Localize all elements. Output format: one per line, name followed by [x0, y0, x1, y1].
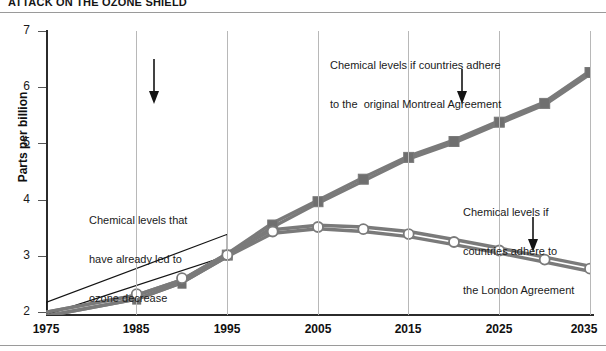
y-tick-mark-6: [38, 87, 46, 88]
figure-divider-bottom: [0, 345, 606, 346]
y-tick-label-2: 2: [8, 304, 30, 318]
y-tick-label-4: 4: [8, 192, 30, 206]
annotation-montreal-line1: Chemical levels if countries adhere: [330, 59, 501, 72]
title-divider-top: [0, 12, 606, 13]
y-tick-label-3: 3: [8, 248, 30, 262]
annotation-historic: Chemical levels that have already led to…: [89, 188, 187, 331]
page-title: ATTACK ON THE OZONE SHIELD: [8, 0, 187, 8]
y-tick-label-6: 6: [8, 79, 30, 93]
annotation-historic-line1: Chemical levels that: [89, 214, 187, 227]
annotation-london-line2: countries adhere to: [463, 245, 574, 258]
x-tick-label-2015: 2015: [378, 322, 438, 336]
annotation-montreal: Chemical levels if countries adhere to t…: [330, 33, 501, 137]
gridline-1995: [227, 31, 228, 315]
london-marker: [358, 224, 368, 234]
montreal-marker: [449, 137, 459, 147]
y-tick-mark-4: [38, 200, 46, 201]
annotation-london-line3: the London Agreement: [463, 284, 574, 297]
annotation-historic-line3: ozone decrease: [89, 292, 187, 305]
london-marker: [268, 227, 278, 237]
montreal-marker: [358, 174, 368, 184]
annotation-montreal-line2: to the original Montreal Agreement: [330, 98, 501, 111]
x-tick-label-2025: 2025: [469, 322, 529, 336]
london-marker: [449, 237, 459, 247]
montreal-marker: [540, 98, 550, 108]
annotation-london-line1: Chemical levels if: [463, 206, 574, 219]
annotation-historic-line2: have already led to: [89, 253, 187, 266]
y-tick-mark-2: [38, 312, 46, 313]
y-tick-label-7: 7: [8, 23, 30, 37]
x-tick-label-2035: 2035: [554, 322, 606, 336]
y-tick-label-5: 5: [8, 135, 30, 149]
x-tick-label-1975: 1975: [16, 322, 76, 336]
annotation-london: Chemical levels if countries adhere to t…: [463, 180, 574, 323]
y-tick-mark-3: [38, 256, 46, 257]
arrow-historic: [149, 59, 159, 104]
x-tick-label-1995: 1995: [197, 322, 257, 336]
x-tick-label-2005: 2005: [288, 322, 348, 336]
chart-figure: ATTACK ON THE OZONE SHIELD Parts per bil…: [0, 0, 606, 351]
gridline-2035: [590, 31, 591, 315]
gridline-2005: [318, 31, 319, 315]
y-tick-mark-5: [38, 143, 46, 144]
y-tick-mark-7: [38, 31, 46, 32]
